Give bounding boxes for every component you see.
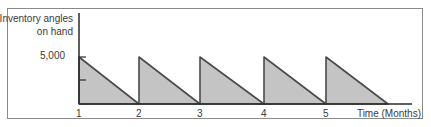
cycle-5-triangle xyxy=(326,57,388,104)
x-tick-label-4: 4 xyxy=(261,108,267,119)
x-tick-label-1: 1 xyxy=(76,108,82,119)
x-axis-label: Time (Months) xyxy=(357,108,421,119)
inventory-sawtooth-series xyxy=(79,57,388,104)
x-tick-label-2: 2 xyxy=(136,108,142,119)
cycle-4-triangle xyxy=(264,57,326,104)
cycle-3-triangle xyxy=(200,57,264,104)
x-tick-label-5: 5 xyxy=(323,108,329,119)
cycle-1-triangle xyxy=(79,57,139,104)
cycle-2-triangle xyxy=(139,57,200,104)
x-tick-label-3: 3 xyxy=(197,108,203,119)
